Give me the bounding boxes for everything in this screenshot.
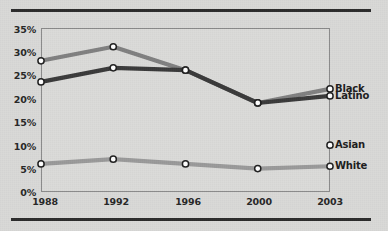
- marker-latino-2003: [327, 93, 333, 99]
- chart-screenshot: 35% 30% 25% 20% 15% 10% 5% 0% 1988 1992 …: [0, 0, 388, 231]
- marker-latino-2000: [255, 100, 261, 106]
- series-label-latino: Latino: [335, 90, 369, 101]
- series-label-white: White: [335, 160, 367, 171]
- marker-white-2003: [327, 163, 333, 169]
- marker-asian-2003: [327, 142, 333, 148]
- marker-latino-1992: [110, 65, 116, 71]
- marker-latino-1996: [182, 67, 188, 73]
- chart-plot: [0, 0, 388, 231]
- marker-latino-1988: [38, 79, 44, 85]
- series-lines: [41, 47, 330, 169]
- series-markers: [38, 44, 333, 172]
- marker-black-1992: [110, 44, 116, 50]
- marker-white-1996: [182, 161, 188, 167]
- marker-white-1992: [110, 156, 116, 162]
- marker-black-1988: [38, 58, 44, 64]
- marker-white-2000: [255, 165, 261, 171]
- marker-black-2003: [327, 86, 333, 92]
- marker-white-1988: [38, 161, 44, 167]
- series-label-asian: Asian: [335, 139, 365, 150]
